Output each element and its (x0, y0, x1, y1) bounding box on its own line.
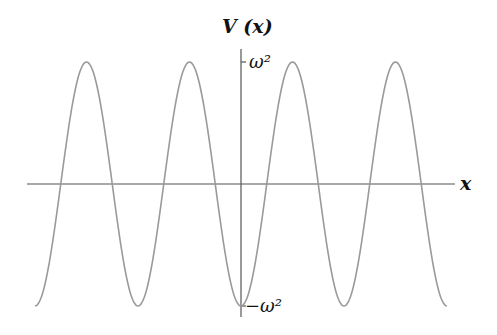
tick-top-label: ω² (249, 51, 271, 72)
x-axis-label: x (459, 172, 472, 194)
y-axis-label: V (x) (222, 15, 273, 37)
tick-bottom-label: −ω² (245, 295, 282, 316)
potential-plot: V (x) x ω² −ω² (0, 0, 497, 335)
